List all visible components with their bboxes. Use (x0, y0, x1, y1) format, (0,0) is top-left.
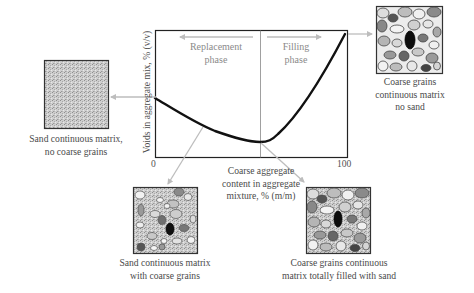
image-sand-only (45, 61, 109, 129)
caption-coarse-filled: Coarse grains continuous matrix totally … (268, 257, 410, 282)
x-axis-label: Coarse aggregate content in aggregate mi… (200, 165, 322, 203)
x-tick-100: 100 (337, 158, 351, 169)
replacement-phase-label: Replacement phase (176, 40, 256, 66)
caption-sand-with-coarse: Sand continuous matrix with coarse grain… (95, 257, 235, 282)
filling-phase-label: Filling phase (266, 40, 326, 66)
caption-coarse-only: Coarse grains continuous matrix no sand (362, 76, 458, 114)
caption-sand-only: Sand continuous matrix, no coarse grains (6, 133, 146, 158)
x-tick-0: 0 (151, 158, 156, 169)
image-sand-with-coarse (134, 188, 198, 254)
image-coarse-only (377, 7, 443, 74)
